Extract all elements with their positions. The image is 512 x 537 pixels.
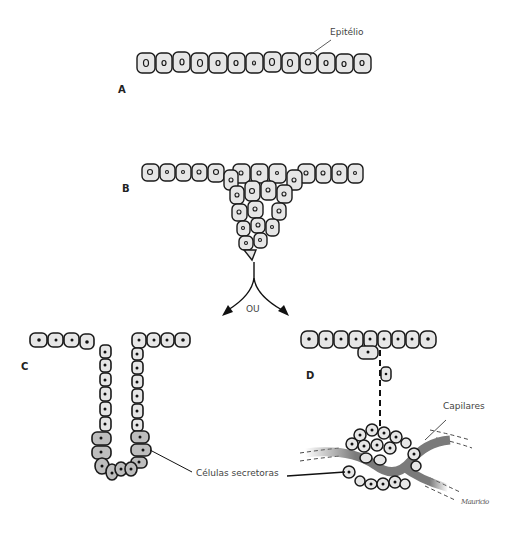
panel-a-epithelium (137, 52, 371, 73)
panel-label-b: B (122, 183, 130, 194)
arrow-left-head (222, 305, 233, 316)
artist-signature: Mauricio (461, 498, 489, 506)
label-secretory-cells: Células secretoras (196, 468, 279, 478)
panel-b-proliferation (142, 164, 363, 260)
label-or: OU (246, 304, 260, 314)
panel-label-c: C (21, 361, 28, 372)
panel-label-a: A (118, 84, 126, 95)
label-epithelium: Epitélio (330, 27, 363, 37)
gland-formation-diagram (0, 0, 512, 537)
panel-label-d: D (306, 370, 314, 381)
secretory-leader-line-c (150, 450, 192, 472)
panel-d-endocrine-gland (300, 331, 472, 500)
arrow-right-head (278, 305, 289, 316)
label-capillaries: Capilares (443, 401, 485, 411)
split-arrows (228, 262, 282, 310)
secretory-leader-line-d (287, 472, 345, 476)
